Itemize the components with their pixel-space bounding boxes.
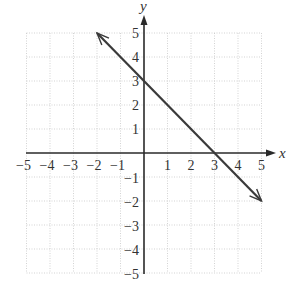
x-axis-arrow-icon [266,150,276,157]
plotted-line [97,33,262,201]
y-tick-label: −2 [124,195,139,210]
y-axis-label: y [138,0,147,14]
x-tick-label: −3 [63,158,78,173]
y-tick-label: 4 [132,50,139,65]
x-tick-label: 5 [258,158,265,173]
x-tick-label: −1 [110,158,125,173]
y-tick-label: −4 [124,243,139,258]
x-tick-label: −4 [40,158,55,173]
y-tick-label: −3 [124,219,139,234]
y-tick-label: −1 [124,171,139,186]
coordinate-plane-chart: x y −5−4−3−2−112345 54321−1−2−3−4−5 [0,0,288,288]
y-tick-label: −5 [124,267,139,282]
x-tick-label: 1 [164,158,171,173]
y-tick-label: 2 [132,98,139,113]
axes: x y [26,0,286,274]
x-tick-label: 4 [235,158,242,173]
y-axis-arrow-icon [141,15,148,25]
y-tick-label: 5 [132,26,139,41]
x-tick-label: −2 [87,158,102,173]
x-tick-label: 2 [188,158,195,173]
x-axis-label: x [278,145,286,161]
x-tick-label: 3 [211,158,218,173]
y-tick-label: 1 [132,122,139,137]
x-tick-label: −5 [16,158,31,173]
plot-series [97,33,262,201]
